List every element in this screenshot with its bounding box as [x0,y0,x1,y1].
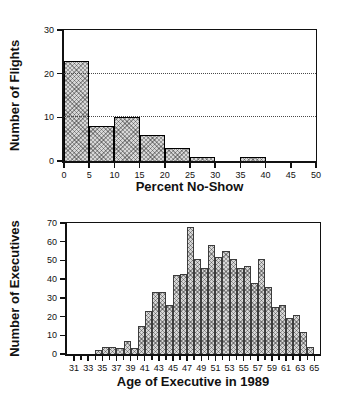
x-tick-label: 25 [178,170,202,180]
x-minor-tick [292,356,294,360]
y-tick [60,335,65,337]
y-tick-label: 30 [31,293,57,303]
x-tick [290,163,292,168]
x-minor-tick [236,356,238,360]
x-tick [214,163,216,168]
x-minor-tick [109,356,111,360]
x-minor-tick [137,356,139,360]
histogram-bar [159,292,166,354]
y-tick [57,160,62,162]
x-tick [87,356,89,361]
histogram-bar [140,135,165,161]
x-tick [215,356,217,361]
y-tick [60,260,65,262]
x-minor-tick [278,356,280,360]
x-minor-tick [165,356,167,360]
x-tick [189,163,191,168]
histogram-bar [114,117,139,161]
x-tick [299,356,301,361]
x-minor-tick [264,356,266,360]
y-tick-label: 10 [28,112,54,122]
x-tick [116,356,118,361]
histogram-bar [124,341,131,354]
x-tick [139,163,141,168]
percent-no-show-axis-title: Percent No-Show [62,179,317,194]
histogram-bar [145,311,152,354]
x-tick [229,356,231,361]
y-tick [60,316,65,318]
histogram-bar [165,148,190,161]
no-show-plot-area [62,29,317,163]
histogram-bar [300,332,307,354]
x-minor-tick [222,356,224,360]
x-tick [164,163,166,168]
y-tick-label: 20 [31,312,57,322]
two-histogram-figure: Percent No-Show Number of Flights Age of… [0,0,344,413]
x-tick [114,163,116,168]
x-tick-label: 30 [203,170,227,180]
x-tick-label: 0 [52,170,76,180]
x-minor-tick [208,356,210,360]
histogram-bar [95,350,102,354]
x-tick-label: 65 [302,363,326,373]
histogram-bar [251,283,258,354]
x-minor-tick [250,356,252,360]
y-tick [60,222,65,224]
x-minor-tick [80,356,82,360]
x-tick [271,356,273,361]
y-tick [60,297,65,299]
y-tick-label: 40 [31,274,57,284]
x-tick [144,356,146,361]
histogram-bar [279,305,286,354]
histogram-bar [190,157,215,161]
x-minor-tick [123,356,125,360]
y-gridline [64,116,316,117]
x-minor-tick [151,356,153,360]
histogram-bar [173,275,180,354]
x-tick-label: 50 [304,170,328,180]
x-tick [102,356,104,361]
histogram-bar [307,347,314,354]
histogram-bar [131,348,138,354]
x-tick [285,356,287,361]
histogram-bar [64,61,89,161]
histogram-bar [116,348,123,354]
x-tick [172,356,174,361]
histogram-bar [244,266,251,354]
histogram-bar [293,315,300,354]
x-tick-label: 45 [279,170,303,180]
histogram-bar [258,259,265,354]
x-tick [257,356,259,361]
histogram-bar [272,307,279,354]
x-tick-label: 20 [153,170,177,180]
histogram-bar [89,126,114,161]
y-tick-label: 70 [31,218,57,228]
histogram-bar [180,274,187,354]
y-tick-label: 30 [28,25,54,35]
x-tick [243,356,245,361]
y-tick [57,117,62,119]
x-tick [265,163,267,168]
x-minor-tick [95,356,97,360]
histogram-bar [194,259,201,354]
histogram-bar [222,251,229,354]
age-of-executive-axis-title: Age of Executive in 1989 [65,374,321,389]
y-tick-label: 20 [28,69,54,79]
histogram-bar [109,347,116,354]
x-tick-label: 15 [128,170,152,180]
histogram-bar [201,268,208,354]
histogram-bar [230,259,237,354]
x-tick [73,356,75,361]
x-tick [315,163,317,168]
x-tick [186,356,188,361]
x-tick-label: 35 [228,170,252,180]
x-tick-label: 10 [102,170,126,180]
histogram-bar [102,347,109,354]
y-gridline [64,73,316,74]
y-tick [60,278,65,280]
y-tick-label: 0 [28,156,54,166]
executive-age-plot-area [65,222,321,356]
x-tick-label: 5 [77,170,101,180]
x-tick [130,356,132,361]
x-tick [314,356,316,361]
